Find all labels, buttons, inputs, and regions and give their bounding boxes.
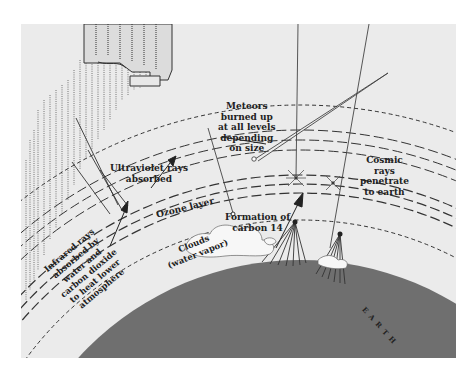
- meteor-icon: [252, 157, 256, 161]
- ultraviolet-label: Ultraviolet rays absorbed: [110, 163, 188, 184]
- meteors-label: Meteors burned up at all levels dependin…: [218, 101, 276, 154]
- cosmic-rays-label: Cosmic rays penetrate to earth: [360, 155, 409, 197]
- cosmic-burst-icon-2: [338, 232, 343, 237]
- cosmic-burst-icon: [293, 220, 298, 225]
- diagram-panel: Meteors burned up at all levels dependin…: [21, 24, 456, 358]
- atmosphere-diagram: Meteors burned up at all levels dependin…: [0, 0, 475, 376]
- carbon-14-label: Formation of carbon 14: [225, 212, 290, 233]
